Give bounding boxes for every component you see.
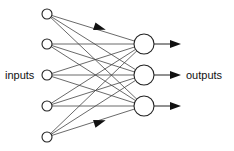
neural-network-diagram: inputs outputs xyxy=(0,0,234,151)
input-node xyxy=(42,39,52,49)
neuron-node xyxy=(134,65,154,85)
connection-edge xyxy=(52,78,135,104)
input-node xyxy=(42,132,52,142)
input-node xyxy=(42,70,52,80)
outputs-label: outputs xyxy=(186,69,223,81)
connection-edges xyxy=(51,15,137,135)
input-layer xyxy=(42,9,52,142)
neuron-node xyxy=(134,34,154,54)
connection-edge xyxy=(51,17,135,70)
connection-edge xyxy=(52,109,135,135)
neuron-layer xyxy=(134,34,154,116)
connection-edge xyxy=(52,77,135,103)
arrow-right-icon xyxy=(170,71,181,79)
connection-edge xyxy=(52,46,135,72)
inputs-label: inputs xyxy=(5,69,35,81)
arrow-right-icon xyxy=(170,40,181,48)
connection-edge xyxy=(52,15,135,41)
output-arrows xyxy=(154,40,181,110)
input-node xyxy=(42,9,52,19)
input-node xyxy=(42,101,52,111)
connection-edge xyxy=(51,80,135,134)
arrow-right-icon xyxy=(170,102,181,110)
arrowhead-icon xyxy=(93,116,107,127)
connection-edge xyxy=(52,47,135,73)
neuron-node xyxy=(134,96,154,116)
